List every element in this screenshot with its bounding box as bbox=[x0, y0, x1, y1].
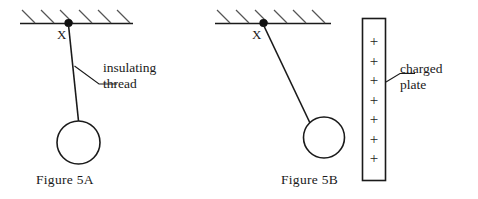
figure-caption-5b: Figure 5B bbox=[281, 172, 338, 188]
annotation-insulating-thread: insulating thread bbox=[103, 60, 156, 92]
ball-a bbox=[57, 121, 100, 164]
annotation-line-1: charged bbox=[400, 61, 442, 77]
annotation-line-2: thread bbox=[103, 76, 156, 92]
insulating-thread-a bbox=[69, 25, 79, 121]
ceiling-hatching-b bbox=[217, 10, 325, 23]
annotation-line-1: insulating bbox=[103, 60, 156, 76]
anchor-label-b: X bbox=[252, 27, 261, 42]
annotation-line-2: plate bbox=[400, 77, 442, 93]
figure-5b-group bbox=[215, 10, 415, 181]
annotation-charged-plate: charged plate bbox=[400, 61, 442, 93]
anchor-label-a: X bbox=[57, 27, 66, 42]
diagram-canvas: +++++++ X X insulating thread charged pl… bbox=[0, 0, 478, 199]
charged-plate bbox=[363, 19, 386, 181]
ball-b bbox=[304, 117, 345, 158]
insulating-thread-b bbox=[264, 25, 311, 123]
figure-caption-5a: Figure 5A bbox=[36, 172, 94, 188]
ceiling-hatching-a bbox=[22, 10, 130, 23]
physics-diagram-svg bbox=[0, 0, 478, 199]
